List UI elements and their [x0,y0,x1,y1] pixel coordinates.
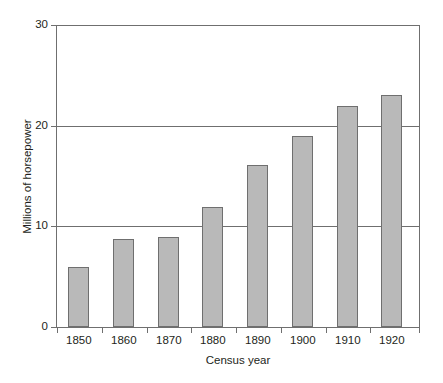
bar [68,267,89,327]
x-tick-mark [281,328,282,333]
bar [113,239,134,327]
x-tick-mark [57,328,58,333]
bar [381,95,402,327]
gridline [56,25,420,26]
y-tick-label: 10 [35,221,48,233]
bar [292,136,313,327]
x-tick-label: 1900 [290,335,316,347]
x-tick-label: 1910 [335,335,361,347]
x-tick-label: 1870 [156,335,182,347]
x-tick-label: 1850 [66,335,92,347]
plot-right-border [419,25,420,328]
x-tick-label: 1920 [379,335,405,347]
bar [202,207,223,327]
y-tick-label: 20 [35,120,48,132]
x-tick-mark [147,328,148,333]
y-axis-title: Millions of horsepower [19,25,35,328]
x-axis-line [56,327,420,328]
plot-area: 0102030 18501860187018801890190019101920 [56,25,420,328]
x-tick-mark [236,328,237,333]
x-tick-mark [102,328,103,333]
x-tick-mark [191,328,192,333]
y-axis-line [56,25,57,328]
x-tick-mark [370,328,371,333]
x-axis-title: Census year [56,352,420,368]
x-tick-label: 1880 [200,335,226,347]
y-tick-label: 0 [42,321,48,333]
gridline [56,126,420,127]
gridline [56,226,420,227]
x-tick-label: 1860 [111,335,137,347]
x-tick-label: 1890 [245,335,271,347]
x-tick-mark [419,328,420,333]
bar [158,237,179,327]
bar [337,106,358,327]
bar [247,165,268,327]
y-tick-label: 30 [35,19,48,31]
x-tick-mark [326,328,327,333]
bar-chart-figure: 0102030 18501860187018801890190019101920… [0,0,443,383]
